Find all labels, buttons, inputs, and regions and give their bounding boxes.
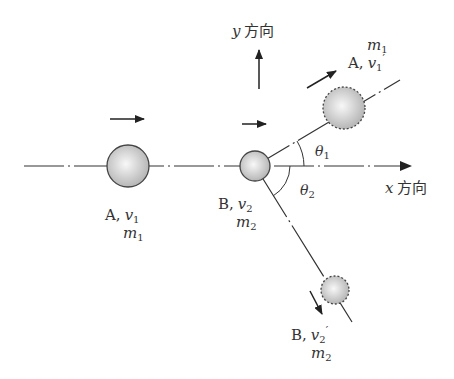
collision-diagram: y方向 x方向 θ1 θ2 A,v1 m1 B,v2 m2 m1 A,v1′ B…: [0, 0, 454, 379]
ball-a-before-mass: m1: [123, 224, 144, 243]
ball-a-before-label: A,v1: [104, 206, 139, 225]
ball-b-before: [240, 151, 270, 181]
ball-a-before: [107, 145, 149, 187]
theta2-arc: [273, 166, 290, 196]
x-axis-label: x方向: [385, 179, 427, 197]
ball-b-after: [321, 276, 349, 304]
x-axis-arrow-icon: [400, 161, 412, 171]
ball-b-before-mass: m2: [236, 213, 257, 232]
ball-a-after-label: A,v1′: [347, 52, 385, 73]
theta1-label: θ1: [315, 143, 330, 161]
a-prime-velocity-arrow-icon: [307, 71, 336, 88]
ball-a-after: [323, 87, 365, 129]
ball-b-after-label: B,v2′: [291, 324, 329, 345]
ball-b-before-label: B,v2: [218, 195, 253, 214]
theta2-label: θ2: [300, 182, 315, 200]
y-axis-label: y方向: [231, 22, 274, 40]
ball-b-after-mass: m2: [311, 344, 332, 363]
x-axis: [24, 161, 412, 171]
theta1-arc: [297, 141, 304, 166]
b-prime-velocity-arrow-icon: [310, 291, 322, 314]
